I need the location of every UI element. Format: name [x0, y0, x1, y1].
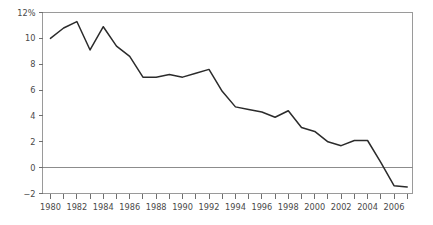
x-axis-tick-label: 1994 [225, 202, 246, 212]
x-axis-tick-label: 1980 [40, 202, 61, 212]
x-axis-tick-label: 1982 [66, 202, 87, 212]
x-axis-tick-label: 1984 [93, 202, 114, 212]
y-axis-tick-label: 12% [17, 8, 35, 18]
chart-canvas: −2024681012%1980198219841986198819901992… [0, 0, 433, 225]
y-axis-tick-label: 2 [30, 137, 35, 147]
y-axis-tick-label: 6 [30, 85, 35, 95]
y-axis-tick-label: 10 [25, 33, 35, 43]
x-axis-tick-label: 2000 [304, 202, 325, 212]
y-axis-tick-label: 4 [30, 111, 35, 121]
y-axis-tick-label: −2 [23, 189, 35, 199]
line-chart: −2024681012%1980198219841986198819901992… [0, 0, 433, 225]
x-axis-tick-label: 2006 [384, 202, 405, 212]
data-series-line-0 [50, 22, 407, 187]
y-axis-tick-label: 8 [30, 59, 35, 69]
x-axis-tick-label: 2004 [357, 202, 378, 212]
x-axis-tick-label: 1996 [251, 202, 272, 212]
plot-area-frame [43, 13, 413, 194]
x-axis-tick-label: 1988 [146, 202, 167, 212]
x-axis-tick-label: 1986 [119, 202, 140, 212]
y-axis-tick-label: 0 [30, 163, 35, 173]
x-axis-tick-label: 1992 [199, 202, 220, 212]
x-axis-tick-label: 2002 [331, 202, 352, 212]
x-axis-tick-label: 1998 [278, 202, 299, 212]
x-axis-tick-label: 1990 [172, 202, 193, 212]
